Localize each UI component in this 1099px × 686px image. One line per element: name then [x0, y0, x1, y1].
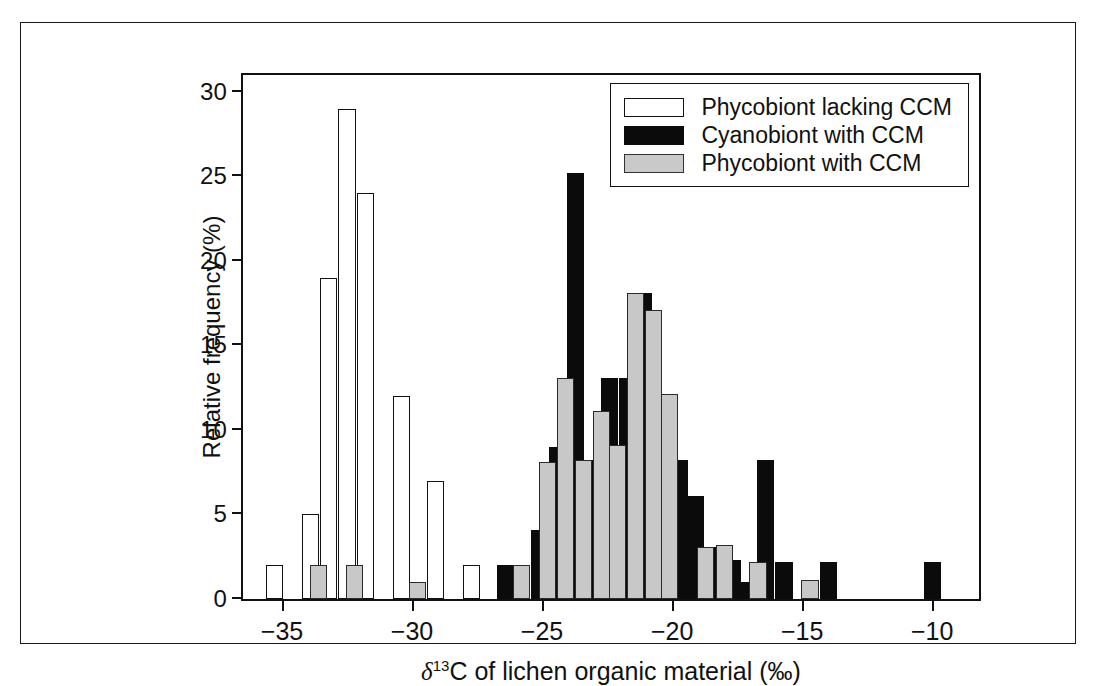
- legend: Phycobiont lacking CCMCyanobiont with CC…: [610, 83, 969, 187]
- x-axis-label: −30: [391, 617, 433, 646]
- legend-item: Cyanobiont with CCM: [624, 121, 952, 149]
- x-axis-title-rest: C of lichen organic material (‰): [449, 657, 801, 685]
- histogram-bar: [575, 460, 592, 599]
- legend-label: Cyanobiont with CCM: [701, 124, 923, 147]
- plot-area: Relative frequency (%) 051015202530 −35−…: [241, 73, 981, 601]
- isotope-superscript: 13: [433, 657, 450, 674]
- x-axis-tick: [412, 599, 414, 611]
- histogram-bar: [924, 562, 941, 599]
- x-axis-tick: [542, 599, 544, 611]
- histogram-bar: [409, 582, 426, 599]
- y-axis-label: 25: [200, 162, 227, 190]
- histogram-bar: [310, 565, 327, 599]
- histogram-bar: [513, 565, 530, 599]
- figure-frame: Relative frequency (%) 051015202530 −35−…: [20, 22, 1076, 644]
- histogram-bar: [320, 278, 337, 599]
- x-axis-tick: [282, 599, 284, 611]
- histogram-bar: [716, 545, 733, 599]
- histogram-bar: [557, 378, 574, 599]
- x-axis-label: −20: [651, 617, 693, 646]
- histogram-bar: [775, 562, 792, 599]
- x-axis-tick: [672, 599, 674, 611]
- x-axis-tick: [932, 599, 934, 611]
- histogram-bar: [357, 193, 374, 599]
- histogram-bar: [266, 565, 283, 599]
- y-axis-label: 5: [213, 500, 227, 528]
- histogram-bar: [346, 565, 363, 599]
- y-axis-label: 30: [200, 78, 227, 106]
- histogram-bar: [697, 547, 714, 599]
- y-axis-tick: [232, 343, 243, 345]
- y-axis-tick: [232, 512, 243, 514]
- y-axis-tick: [232, 428, 243, 430]
- x-axis-label: −25: [521, 617, 563, 646]
- x-axis-label: −10: [911, 617, 953, 646]
- x-axis-tick: [802, 599, 804, 611]
- legend-item: Phycobiont lacking CCM: [624, 93, 952, 121]
- y-axis-label: 15: [200, 331, 227, 359]
- y-axis-tick: [232, 597, 243, 599]
- y-axis-label: 20: [200, 247, 227, 275]
- x-axis-label: −35: [261, 617, 303, 646]
- histogram-bar: [749, 562, 766, 599]
- histogram-bar: [497, 565, 514, 599]
- histogram-bar: [593, 411, 610, 599]
- histogram-bar: [661, 394, 678, 599]
- histogram-bar: [463, 565, 480, 599]
- y-axis-tick: [232, 90, 243, 92]
- histogram-bar: [645, 310, 662, 599]
- legend-swatch-black: [624, 126, 684, 145]
- histogram-bar: [627, 293, 644, 599]
- histogram-bar: [801, 580, 818, 599]
- legend-item: Phycobiont with CCM: [624, 149, 952, 177]
- legend-label: Phycobiont with CCM: [701, 152, 921, 175]
- histogram-bar: [393, 396, 410, 599]
- legend-label: Phycobiont lacking CCM: [701, 96, 952, 119]
- y-axis-tick: [232, 259, 243, 261]
- y-axis-label: 0: [213, 585, 227, 613]
- y-axis-label: 10: [200, 416, 227, 444]
- legend-swatch-gray: [624, 154, 684, 173]
- histogram-bar: [539, 462, 556, 599]
- legend-swatch-white: [624, 98, 684, 117]
- x-axis-label: −15: [781, 617, 823, 646]
- histogram-bar: [820, 562, 837, 599]
- histogram-bar: [609, 445, 626, 599]
- delta-symbol: δ: [421, 658, 433, 685]
- x-axis-title: δ13C of lichen organic material (‰): [421, 657, 801, 686]
- y-axis-tick: [232, 174, 243, 176]
- histogram-bar: [427, 481, 444, 599]
- histogram-bar: [338, 109, 355, 599]
